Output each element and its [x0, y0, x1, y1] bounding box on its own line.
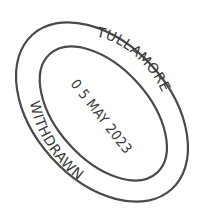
stamp-bottom-label-path: WITHDRAWN: [27, 99, 87, 183]
stamp-top-label-path: TULLAMORE: [94, 24, 174, 95]
stamp-bottom-label: WITHDRAWN: [27, 99, 87, 183]
stamp-top-label: TULLAMORE: [94, 24, 174, 95]
library-stamp: TULLAMORE WITHDRAWN 0 5 MAY 2023: [0, 0, 200, 221]
stamp-graphic: TULLAMORE WITHDRAWN 0 5 MAY 2023: [0, 0, 200, 221]
stamp-date: 0 5 MAY 2023: [68, 76, 136, 157]
